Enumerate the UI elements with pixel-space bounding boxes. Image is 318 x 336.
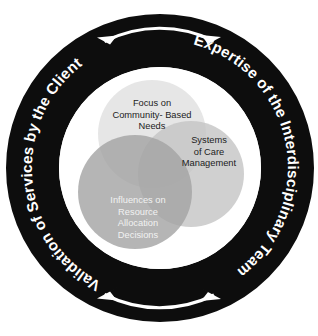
venn-label-influences-resource-line-3: Allocation bbox=[118, 218, 158, 228]
venn-label-focus-community-line-1: Focus on bbox=[133, 98, 171, 108]
venn-label-influences-resource: Influences on Resource Allocation Decisi… bbox=[110, 195, 165, 240]
venn-label-influences-resource-line-1: Influences on bbox=[110, 195, 165, 205]
venn-label-systems-care-line-2: of Care bbox=[194, 147, 225, 157]
venn-label-focus-community-line-3: Needs bbox=[139, 121, 166, 131]
circular-diagram: Expertise of the Interdisciplinary Team … bbox=[0, 0, 318, 336]
venn-label-influences-resource-line-2: Resource bbox=[118, 207, 158, 217]
venn-label-focus-community-line-2: Community- Based bbox=[112, 110, 191, 120]
venn-label-systems-care-line-1: Systems bbox=[191, 135, 227, 145]
venn-label-systems-care-line-3: Management bbox=[182, 158, 237, 168]
venn-label-influences-resource-line-4: Decisions bbox=[118, 230, 159, 240]
diagram-canvas: Expertise of the Interdisciplinary Team … bbox=[0, 0, 318, 336]
